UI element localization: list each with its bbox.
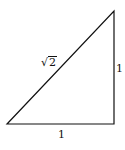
sqrt-radicand: 2 bbox=[48, 56, 57, 68]
vertical-side-label: 1 bbox=[116, 63, 123, 74]
hypotenuse-label: √2 bbox=[41, 56, 57, 68]
right-triangle bbox=[7, 11, 114, 124]
sqrt-symbol: √ bbox=[41, 56, 48, 69]
horizontal-side-label: 1 bbox=[58, 129, 65, 140]
